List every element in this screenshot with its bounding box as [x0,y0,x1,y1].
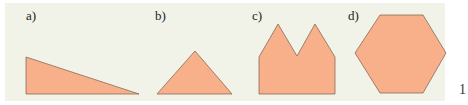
shapes-canvas [0,0,468,105]
page-number: 1 [459,82,466,98]
shape-d-hexagon [355,15,446,93]
shape-b-triangle [157,51,232,94]
shape-c-double-peak [259,24,335,94]
shape-a-right-triangle [26,57,139,94]
